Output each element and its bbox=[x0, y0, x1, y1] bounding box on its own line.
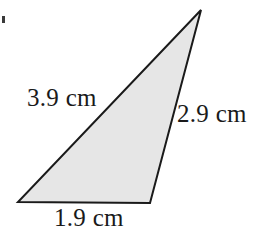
side-label-left: 3.9 cm bbox=[27, 85, 97, 110]
side-label-right: 2.9 cm bbox=[177, 101, 247, 126]
scan-speck-mark bbox=[2, 16, 5, 23]
triangle-figure: 3.9 cm 2.9 cm 1.9 cm bbox=[0, 0, 269, 234]
side-label-bottom: 1.9 cm bbox=[54, 205, 124, 230]
